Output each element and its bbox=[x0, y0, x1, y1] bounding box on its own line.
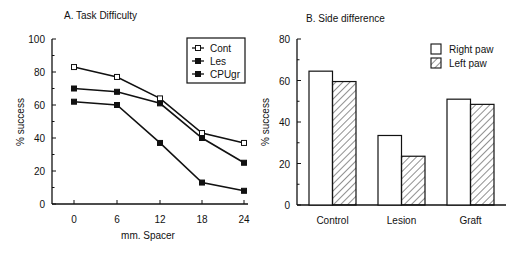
data-point bbox=[242, 160, 247, 165]
data-point bbox=[115, 74, 120, 79]
legend-marker bbox=[196, 46, 201, 51]
y-tick-label: 40 bbox=[279, 117, 291, 128]
y-tick-label: 60 bbox=[34, 100, 46, 111]
legend-marker bbox=[196, 59, 201, 64]
legend-label: Cont bbox=[210, 43, 231, 54]
category-label: Control bbox=[316, 215, 348, 226]
data-point bbox=[242, 140, 247, 145]
bar-graft-right-paw bbox=[447, 99, 471, 205]
y-tick-label: 0 bbox=[284, 200, 290, 211]
y-tick-label: 40 bbox=[34, 133, 46, 144]
legend: ContLesCPUgr bbox=[187, 38, 245, 83]
legend-label: Les bbox=[210, 56, 226, 67]
y-tick-label: 80 bbox=[279, 34, 291, 45]
figure: A. Task Difficulty02040608010006121824mm… bbox=[0, 0, 518, 253]
legend-swatch bbox=[431, 44, 441, 54]
data-point bbox=[115, 89, 120, 94]
x-tick-label: 6 bbox=[114, 214, 120, 225]
category-label: Graft bbox=[459, 215, 481, 226]
legend: Right pawLeft paw bbox=[431, 44, 494, 69]
data-point bbox=[242, 188, 247, 193]
chart-task-difficulty: A. Task Difficulty02040608010006121824mm… bbox=[15, 10, 250, 241]
data-point bbox=[200, 136, 205, 141]
legend-label: CPUgr bbox=[210, 69, 241, 80]
legend-label: Right paw bbox=[449, 44, 494, 55]
bar-lesion-right-paw bbox=[378, 135, 402, 205]
bar-graft-left-paw bbox=[471, 104, 495, 205]
chart-title: A. Task Difficulty bbox=[64, 10, 137, 21]
x-tick-label: 18 bbox=[196, 214, 208, 225]
x-axis-label: mm. Spacer bbox=[121, 230, 176, 241]
bar-control-right-paw bbox=[309, 71, 333, 205]
y-tick-label: 80 bbox=[34, 67, 46, 78]
data-point bbox=[72, 65, 77, 70]
y-axis-label: % success bbox=[15, 98, 26, 146]
y-tick-label: 0 bbox=[39, 199, 45, 210]
legend-swatch bbox=[431, 58, 441, 68]
legend-marker bbox=[196, 72, 201, 77]
data-point bbox=[200, 131, 205, 136]
data-point bbox=[72, 86, 77, 91]
data-point bbox=[158, 96, 163, 101]
x-tick-label: 24 bbox=[238, 214, 250, 225]
bar-control-left-paw bbox=[333, 82, 357, 205]
data-point bbox=[200, 180, 205, 185]
x-tick-label: 12 bbox=[154, 214, 166, 225]
data-point bbox=[72, 99, 77, 104]
data-point bbox=[158, 140, 163, 145]
y-tick-label: 60 bbox=[279, 76, 291, 87]
data-point bbox=[158, 101, 163, 106]
y-tick-label: 20 bbox=[279, 159, 291, 170]
series-line-cpugr bbox=[74, 102, 244, 191]
x-tick-label: 0 bbox=[71, 214, 77, 225]
data-point bbox=[115, 103, 120, 108]
bar-lesion-left-paw bbox=[402, 156, 426, 205]
chart-title: B. Side difference bbox=[306, 13, 385, 24]
y-tick-label: 20 bbox=[34, 166, 46, 177]
category-label: Lesion bbox=[387, 215, 416, 226]
chart-side-difference: B. Side difference020406080% successCont… bbox=[260, 13, 506, 226]
y-tick-label: 100 bbox=[28, 34, 45, 45]
legend-label: Left paw bbox=[449, 58, 488, 69]
y-axis-label: % success bbox=[260, 98, 271, 146]
